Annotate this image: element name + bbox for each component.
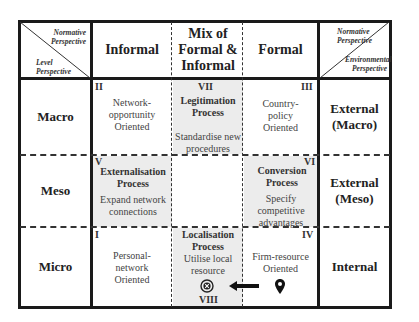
arrow-left-icon — [229, 281, 259, 291]
numeral-iii: III — [301, 81, 313, 92]
column-header-mix: Mix of Formal & Informal — [173, 22, 243, 77]
corner-left-bottom-label: Level Perspective — [36, 58, 70, 76]
env-label-external-macro: External (Macro) — [320, 80, 389, 154]
cell-vii-text: Standardise new procedures — [175, 131, 241, 155]
cell-v-process: Externalisation Process — [100, 166, 166, 190]
cell-vii-process: Legitimation Process — [180, 95, 236, 119]
env-label-external-meso: External (Meso) — [320, 156, 389, 226]
cell-ii-text: Network-opportunity Oriented — [93, 92, 171, 138]
table-bottom-border — [18, 306, 392, 309]
row-label-micro: Micro — [21, 228, 90, 306]
cell-iv-text: Firm-resource Oriented — [244, 246, 317, 280]
numeral-iv: IV — [302, 229, 313, 240]
mix-left-divider — [171, 22, 172, 307]
corner-left-top-label: Normative Perspective — [50, 28, 86, 46]
location-pin-icon — [275, 279, 285, 294]
corner-right-top-label: Normative Perspective — [337, 27, 377, 45]
column-header-informal: Informal — [93, 22, 171, 77]
cell-iii-text: Country-policy Oriented — [244, 92, 317, 140]
env-label-internal: Internal — [320, 228, 389, 306]
numeral-viii: VIII — [199, 294, 218, 305]
cell-vi-process: Conversion Process — [255, 165, 309, 189]
row-label-macro: Macro — [21, 80, 90, 154]
row-label-meso: Meso — [21, 156, 90, 226]
numeral-i: I — [95, 229, 99, 240]
column-header-formal: Formal — [244, 22, 317, 77]
numeral-ii: II — [95, 81, 103, 92]
numeral-vii: VII — [198, 81, 213, 92]
corner-right-bottom-label: Environmental Perspective — [345, 55, 387, 73]
target-icon — [200, 279, 214, 293]
cell-viii-process: Localisation Process — [180, 229, 236, 253]
cell-vi-text: Specify competitive advantages — [245, 193, 317, 229]
cell-i-text: Personal-network Oriented — [93, 246, 171, 290]
cell-viii-text: Utilise local resource — [183, 253, 233, 277]
cell-v-text: Expand network connections — [100, 194, 166, 218]
